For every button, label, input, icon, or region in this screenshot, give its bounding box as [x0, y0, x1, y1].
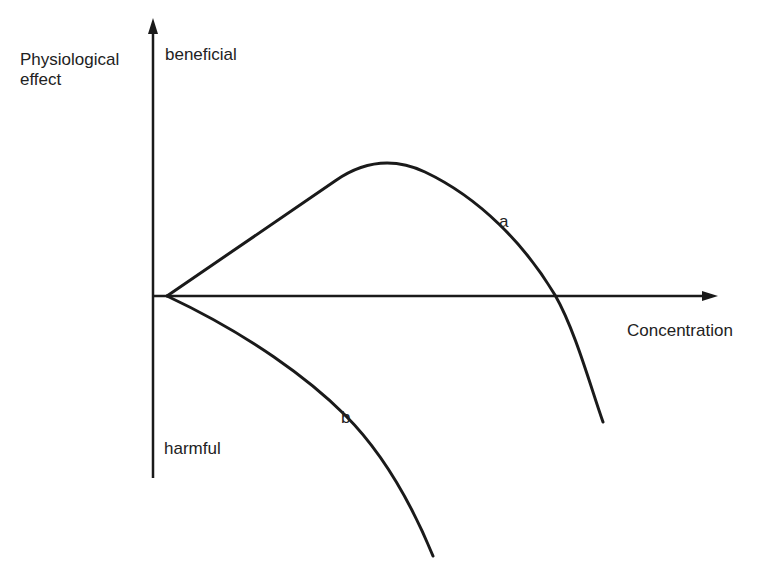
curve-a-label: a: [499, 212, 508, 232]
beneficial-label: beneficial: [165, 45, 237, 65]
x-axis-title: Concentration: [627, 321, 733, 341]
harmful-label: harmful: [164, 439, 221, 459]
y-axis-title-line1: Physiological: [20, 50, 119, 70]
y-axis-arrow-icon: [148, 18, 158, 34]
y-axis-title-line2: effect: [20, 70, 119, 90]
curve-b: [167, 296, 433, 556]
curve-a: [167, 163, 603, 422]
y-axis-title: Physiological effect: [20, 50, 119, 90]
x-axis-arrow-icon: [702, 291, 718, 301]
curve-b-label: b: [341, 408, 350, 428]
